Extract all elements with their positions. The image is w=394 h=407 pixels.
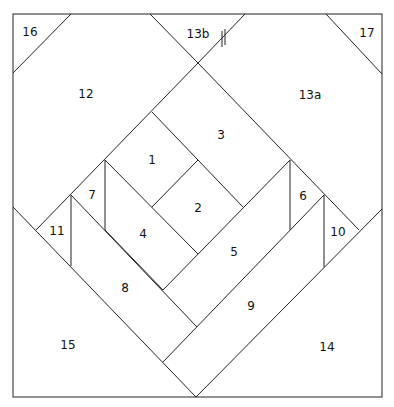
piece-label-5: 5 xyxy=(230,245,238,259)
seam-17 xyxy=(326,14,382,74)
piece-label-16: 16 xyxy=(22,25,37,39)
piece-label-14: 14 xyxy=(319,340,334,354)
piece-label-7: 7 xyxy=(88,188,96,202)
piece-label-3: 3 xyxy=(217,128,225,142)
piece-label-13a: 13a xyxy=(299,88,322,102)
piece-label-12: 12 xyxy=(78,87,93,101)
seam-14 xyxy=(196,209,382,397)
piece-label-15: 15 xyxy=(60,338,75,352)
seam-4-8 xyxy=(105,230,163,290)
seam-12 xyxy=(36,63,198,230)
piece-label-9: 9 xyxy=(247,299,255,313)
piece-label-8: 8 xyxy=(121,281,129,295)
seam-5-9 xyxy=(163,195,324,362)
piece-label-13b: 13b xyxy=(187,27,210,41)
seam-15 xyxy=(13,207,196,397)
piece-label-6: 6 xyxy=(299,189,307,203)
piece-label-11: 11 xyxy=(49,224,64,238)
piece-label-17: 17 xyxy=(359,26,374,40)
piece-label-1: 1 xyxy=(148,153,156,167)
piece-label-4: 4 xyxy=(139,227,147,241)
seam-13a xyxy=(198,63,359,230)
seam-3-5 xyxy=(163,160,290,290)
seam-7-8 xyxy=(71,195,197,327)
pattern-diagram: 1 2 3 4 5 6 7 8 9 10 11 12 13a 13b 14 15… xyxy=(0,0,394,407)
piece-label-2: 2 xyxy=(194,201,202,215)
seam-16 xyxy=(13,14,71,73)
seam-1-2 xyxy=(152,160,198,207)
piece-label-10: 10 xyxy=(330,225,345,239)
